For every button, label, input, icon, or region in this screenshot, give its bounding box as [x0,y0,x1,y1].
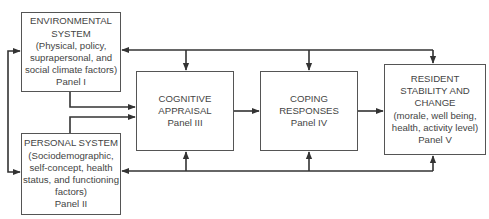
panel-1-environmental-system: ENVIRONMENTAL SYSTEM (Physical, policy, … [21,12,121,92]
left-bracket-to-panel-2 [8,110,20,172]
left-bracket-to-panel-1 [8,51,20,110]
box-line: COPING [290,93,328,105]
panel-5-resident-stability-and-change: RESIDENT STABILITY AND CHANGE (morale, w… [384,64,486,155]
box-line: Panel III [167,117,202,129]
box-line: SYSTEM [51,28,90,40]
box-line: factors) [55,186,87,198]
box-line: self-concept, health [29,162,112,174]
box-line: (Physical, policy, [36,40,107,52]
box-line: (morale, well being, [393,110,476,122]
box-line: health, activity level) [392,122,478,134]
arrow-panel-2-to-panel-3 [70,117,135,133]
box-line: status, and functioning [23,174,119,186]
box-line: Panel IV [291,117,327,129]
box-line: CHANGE [414,97,455,109]
box-line: STABILITY AND [400,85,470,97]
panel-3-cognitive-appraisal: COGNITIVE APPRAISAL Panel III [136,71,234,151]
arrow-panel-1-to-panel-3 [70,92,135,107]
box-line: Panel V [418,134,452,146]
box-line: COGNITIVE [159,93,212,105]
box-line: PERSONAL SYSTEM [24,137,118,149]
box-line: RESPONSES [279,105,339,117]
panel-4-coping-responses: COPING RESPONSES Panel IV [260,71,358,151]
box-line: RESIDENT [411,73,460,85]
box-line: Panel I [56,76,86,88]
box-line: APPRAISAL [158,105,211,117]
box-line: social climate factors) [25,64,117,76]
box-line: ENVIRONMENTAL [30,15,112,27]
box-line: (Sociodemographic, [28,150,113,162]
panel-2-personal-system: PERSONAL SYSTEM (Sociodemographic, self-… [21,133,121,215]
box-line: Panel II [55,198,88,210]
box-line: suprapersonal, and [30,52,112,64]
